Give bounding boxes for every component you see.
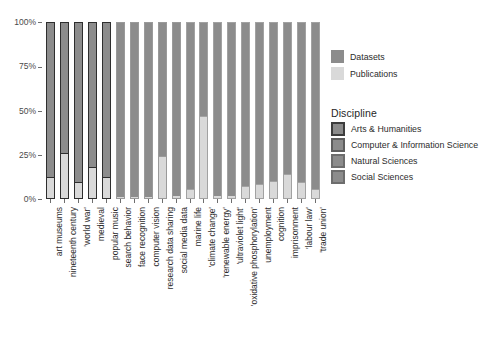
bar-slot: [86, 22, 100, 199]
fill-legend-item[interactable]: Publications: [331, 67, 486, 80]
fill-legend-label: Publications: [350, 69, 397, 79]
x-axis-tick: [280, 199, 294, 205]
x-axis-tick-mark: [106, 199, 107, 203]
bar-segment-publications: [173, 196, 180, 198]
bar-slot: [72, 22, 86, 199]
bar-segment-datasets: [159, 23, 166, 156]
discipline-legend-item[interactable]: Natural Sciences: [331, 154, 489, 168]
bar-segment-publications: [256, 184, 263, 198]
x-axis-tick-mark: [287, 199, 288, 203]
stacked-bar[interactable]: [311, 22, 320, 199]
bar-segment-publications: [131, 197, 138, 198]
bar-segment-datasets: [298, 23, 305, 182]
x-axis-label-slot: 'world war': [72, 207, 86, 327]
bar-segment-datasets: [117, 23, 124, 197]
stacked-bar[interactable]: [199, 22, 208, 199]
y-axis-tick-mark: [38, 111, 42, 112]
bar-segment-datasets: [256, 23, 263, 184]
x-axis-tick: [197, 199, 211, 205]
discipline-legend-item[interactable]: Computer & Information Science: [331, 138, 489, 152]
y-axis-tick: 100%: [0, 17, 42, 27]
bar-slot: [114, 22, 128, 199]
bar-segment-datasets: [131, 23, 138, 197]
bar-segment-publications: [187, 189, 194, 198]
stacked-bar[interactable]: [297, 22, 306, 199]
y-axis-tick-mark: [38, 22, 42, 23]
fill-legend-item[interactable]: Datasets: [331, 50, 486, 63]
stacked-bar[interactable]: [60, 22, 69, 199]
y-axis-tick: 50%: [0, 106, 42, 116]
bar-segment-publications: [47, 177, 54, 198]
stacked-bar[interactable]: [186, 22, 195, 199]
bar-slot: [280, 22, 294, 199]
stacked-bar[interactable]: [255, 22, 264, 199]
bar-segment-publications: [214, 196, 221, 198]
bar-group: [44, 22, 322, 199]
bar-segment-datasets: [270, 23, 277, 181]
x-axis-tick: [225, 199, 239, 205]
x-axis-tick: [183, 199, 197, 205]
stacked-bar[interactable]: [144, 22, 153, 199]
x-axis-tick-mark: [134, 199, 135, 203]
y-axis-tick: 0%: [0, 194, 42, 204]
discipline-legend-label: Computer & Information Science: [351, 140, 478, 150]
stacked-bar[interactable]: [241, 22, 250, 199]
x-axis-label-slot: 'ultraviolet light': [225, 207, 239, 327]
fill-legend: DatasetsPublications: [331, 50, 486, 84]
bar-segment-datasets: [187, 23, 194, 189]
x-axis-tick: [239, 199, 253, 205]
discipline-legend-label: Arts & Humanities: [351, 124, 421, 134]
x-axis-tick: [100, 199, 114, 205]
bar-segment-publications: [284, 174, 291, 199]
x-axis-label-slot: 'oxidative phosphorylation': [239, 207, 253, 327]
stacked-bar[interactable]: [116, 22, 125, 199]
stacked-bar[interactable]: [227, 22, 236, 199]
bar-segment-publications: [298, 182, 305, 198]
bar-slot: [141, 22, 155, 199]
y-axis-tick-mark: [38, 155, 42, 156]
discipline-legend-item[interactable]: Arts & Humanities: [331, 122, 489, 136]
y-axis-tick-mark: [38, 199, 42, 200]
x-axis-tick: [86, 199, 100, 205]
discipline-legend-title: Discipline: [331, 107, 489, 119]
bar-segment-publications: [270, 181, 277, 199]
bar-slot: [308, 22, 322, 199]
x-axis-tick-mark: [245, 199, 246, 203]
bar-slot: [100, 22, 114, 199]
bar-slot: [267, 22, 281, 199]
stacked-bar[interactable]: [46, 22, 55, 199]
x-axis-label-slot: 'trade union': [308, 207, 322, 327]
x-axis-tick-mark: [120, 199, 121, 203]
bar-segment-datasets: [200, 23, 207, 116]
stacked-bar[interactable]: [130, 22, 139, 199]
stacked-bar[interactable]: [74, 22, 83, 199]
x-axis-tick-mark: [301, 199, 302, 203]
bar-segment-publications: [242, 186, 249, 198]
stacked-bar[interactable]: [172, 22, 181, 199]
x-axis-tick: [169, 199, 183, 205]
stacked-bar[interactable]: [102, 22, 111, 199]
x-axis-label-slot: 'labour law': [294, 207, 308, 327]
discipline-legend-item[interactable]: Social Sciences: [331, 170, 489, 184]
stacked-bar[interactable]: [269, 22, 278, 199]
x-axis-tick-mark: [203, 199, 204, 203]
bar-slot: [294, 22, 308, 199]
y-axis: 0%25%50%75%100%: [0, 14, 42, 207]
bar-slot: [253, 22, 267, 199]
bar-slot: [58, 22, 72, 199]
x-axis-tick: [44, 199, 58, 205]
bar-slot: [239, 22, 253, 199]
x-axis-tick-mark: [217, 199, 218, 203]
y-axis-tick-label: 100%: [14, 17, 36, 27]
x-axis-tick: [211, 199, 225, 205]
x-axis-tick: [114, 199, 128, 205]
stacked-bar[interactable]: [88, 22, 97, 199]
y-axis-tick: 75%: [0, 61, 42, 71]
x-axis-tick-mark: [64, 199, 65, 203]
stacked-bar[interactable]: [283, 22, 292, 199]
discipline-legend-swatch: [331, 154, 345, 168]
stacked-bar[interactable]: [213, 22, 222, 199]
x-axis-tick-mark: [92, 199, 93, 203]
stacked-bar[interactable]: [158, 22, 167, 199]
discipline-legend-swatch: [331, 138, 345, 152]
